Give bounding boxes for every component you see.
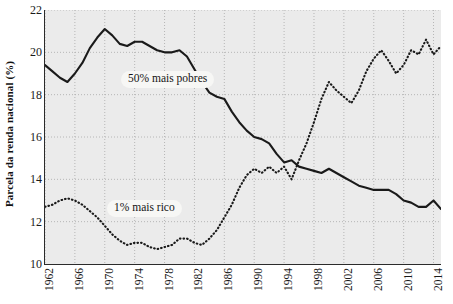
y-axis-tick-label: 14 xyxy=(22,173,42,185)
x-axis-tick-label: 1998 xyxy=(306,266,320,304)
plot-area: 50% mais pobres 1% mais rico xyxy=(44,10,441,265)
y-axis-title-text: Parcela da renda nacional (%) xyxy=(3,61,15,207)
x-axis-tick-label: 1974 xyxy=(127,266,141,304)
x-axis-tick-label-text: 1994 xyxy=(283,268,295,291)
y-axis-tick-label: 18 xyxy=(22,89,42,101)
x-axis-tick-label: 1982 xyxy=(186,266,200,304)
x-axis-tick-label-text: 1986 xyxy=(223,268,235,291)
x-axis-tick-label-text: 1990 xyxy=(253,268,265,291)
x-axis-tick-label: 1966 xyxy=(67,266,81,304)
x-axis-tick-label-text: 1962 xyxy=(44,268,56,291)
x-axis-tick-label: 2014 xyxy=(426,266,440,304)
x-axis-tick-label: 1970 xyxy=(97,266,111,304)
x-axis-tick-label-text: 1970 xyxy=(104,268,116,291)
x-axis-tick-label-text: 2002 xyxy=(343,268,355,291)
x-axis-tick-label-text: 1982 xyxy=(193,268,205,291)
x-axis-tick-label: 1962 xyxy=(37,266,51,304)
y-axis-tick-label: 16 xyxy=(22,131,42,143)
y-axis-tick-label: 12 xyxy=(22,216,42,228)
x-axis-tick-label-text: 2014 xyxy=(433,268,445,291)
x-axis-tick-label: 1994 xyxy=(276,266,290,304)
x-axis-tick-label-text: 1974 xyxy=(134,268,146,291)
x-axis-tick-label: 2002 xyxy=(336,266,350,304)
x-axis-tick-labels: 1962196619701974197819821986199019941998… xyxy=(44,266,440,304)
x-axis-tick-label: 1978 xyxy=(157,266,171,304)
x-axis-tick-label-text: 2010 xyxy=(403,268,415,291)
y-axis-tick-labels: 10121416182022 xyxy=(16,0,42,304)
chart-figure: Parcela da renda nacional (%) 1012141618… xyxy=(0,0,453,304)
series-canvas xyxy=(45,10,441,264)
x-axis-tick-label: 1990 xyxy=(246,266,260,304)
x-axis-tick-label-text: 1966 xyxy=(74,268,86,291)
y-axis-tick-label: 20 xyxy=(22,46,42,58)
x-axis-tick-label-text: 1978 xyxy=(164,268,176,291)
x-axis-tick-label-text: 2006 xyxy=(373,268,385,291)
x-axis-tick-label-text: 1998 xyxy=(313,268,325,291)
series-annotation-richest: 1% mais rico xyxy=(107,200,182,217)
x-axis-tick-label: 2010 xyxy=(396,266,410,304)
series-annotation-poorest: 50% mais pobres xyxy=(121,71,214,88)
x-axis-tick-label: 1986 xyxy=(216,266,230,304)
x-axis-tick-label: 2006 xyxy=(366,266,380,304)
y-axis-tick-label: 22 xyxy=(22,4,42,16)
